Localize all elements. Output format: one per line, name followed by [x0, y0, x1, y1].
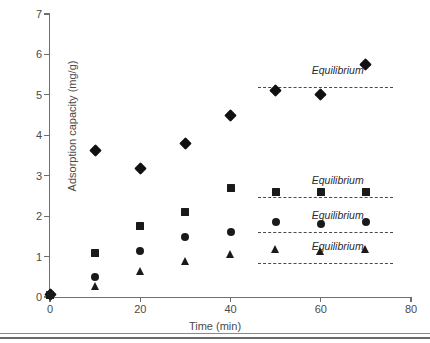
data-point-square — [181, 208, 189, 216]
equilibrium-label: Equilibrium — [312, 174, 364, 186]
data-point-circle — [317, 220, 325, 228]
data-point-diamond — [179, 137, 192, 150]
y-tick-label-wrap: 0 — [14, 292, 42, 302]
y-tick-label-wrap: 1 — [14, 252, 42, 262]
y-tick-label: 6 — [26, 49, 42, 59]
x-tick-label: 40 — [211, 303, 251, 315]
y-tick-label: 3 — [26, 171, 42, 181]
data-point-circle — [227, 228, 235, 236]
y-tick-label-wrap: 4 — [14, 130, 42, 140]
y-tick-mark — [44, 256, 49, 257]
x-tick-label: 0 — [30, 303, 70, 315]
y-tick-label: 2 — [26, 211, 42, 221]
data-point-circle — [362, 218, 370, 226]
data-point-square — [362, 188, 370, 196]
adsorption-capacity-scatter-chart: 01234567 020406080 EquilibriumEquilibriu… — [0, 0, 430, 343]
equilibrium-dashed-line — [258, 197, 393, 198]
data-point-triangle — [226, 250, 234, 258]
y-tick-label-wrap: 5 — [14, 90, 42, 100]
y-tick-mark — [44, 135, 49, 136]
y-tick-label: 1 — [26, 252, 42, 262]
data-point-square — [317, 188, 325, 196]
x-axis-title: Time (min) — [0, 320, 430, 332]
data-point-square — [136, 222, 144, 230]
data-point-triangle — [361, 245, 369, 253]
data-point-circle — [91, 273, 99, 281]
data-point-triangle — [316, 247, 324, 255]
y-tick-label-wrap: 7 — [14, 9, 42, 19]
y-tick-label: 7 — [26, 9, 42, 19]
x-tick-label: 20 — [120, 303, 160, 315]
y-tick-label-wrap: 3 — [14, 171, 42, 181]
x-tick-mark — [140, 297, 141, 302]
y-tick-mark — [44, 216, 49, 217]
y-tick-label: 4 — [26, 130, 42, 140]
data-point-diamond — [314, 88, 327, 101]
y-tick-mark — [44, 13, 49, 14]
data-point-circle — [272, 218, 280, 226]
y-tick-mark — [44, 94, 49, 95]
data-point-triangle — [136, 267, 144, 275]
x-tick-mark — [320, 297, 321, 302]
y-tick-label: 0 — [26, 292, 42, 302]
data-point-triangle — [271, 245, 279, 253]
y-tick-mark — [44, 54, 49, 55]
equilibrium-label: Equilibrium — [312, 64, 364, 76]
x-tick-label: 80 — [391, 303, 430, 315]
page-rule-upper — [0, 333, 430, 334]
x-tick-label: 60 — [301, 303, 341, 315]
data-point-diamond — [134, 162, 147, 175]
data-point-square — [91, 249, 99, 257]
equilibrium-dashed-line — [258, 232, 393, 233]
y-tick-label-wrap: 2 — [14, 211, 42, 221]
x-tick-mark — [230, 297, 231, 302]
page-rule-lower — [0, 337, 430, 339]
y-tick-label-wrap: 6 — [14, 49, 42, 59]
x-tick-mark — [410, 297, 411, 302]
data-point-triangle — [91, 282, 99, 290]
data-point-diamond — [224, 109, 237, 122]
data-point-circle — [181, 233, 189, 241]
y-axis-title: Adsorption capacity (mg/g) — [66, 46, 78, 206]
y-tick-label: 5 — [26, 90, 42, 100]
data-point-diamond — [89, 144, 102, 157]
equilibrium-label: Equilibrium — [312, 209, 364, 221]
data-point-square — [227, 184, 235, 192]
y-axis-line — [49, 13, 50, 298]
data-point-square — [272, 188, 280, 196]
y-tick-mark — [44, 175, 49, 176]
data-point-circle — [136, 247, 144, 255]
data-point-triangle — [181, 257, 189, 265]
data-point-triangle — [46, 291, 54, 299]
equilibrium-dashed-line — [258, 263, 393, 264]
